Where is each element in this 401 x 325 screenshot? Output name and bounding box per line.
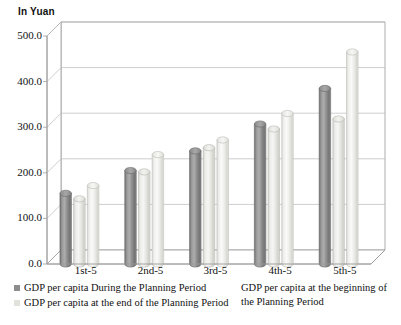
bar-3rd-5-series3 [217, 137, 229, 267]
bar-5th-5-series3 [347, 49, 359, 267]
x-category-label-4th-5: 4th-5 [250, 264, 310, 276]
bar-1st-5-series2 [74, 196, 86, 267]
legend-item-series3[interactable]: GDP per capita at the beginning of the P… [231, 281, 399, 309]
legend-swatch-series2 [14, 300, 20, 306]
legend-item-series1[interactable]: GDP per capita During the Planning Perio… [14, 281, 229, 294]
bar-1st-5-series1 [60, 190, 72, 267]
y-tick-label-400: 400.0 [0, 75, 42, 87]
bar-2nd-5-series3 [152, 151, 164, 267]
bar-5th-5-series1 [319, 85, 331, 267]
chart-container: In Yuan [0, 0, 401, 325]
x-category-label-5th-5: 5th-5 [315, 264, 375, 276]
bar-2nd-5-series2 [138, 169, 150, 267]
bar-2nd-5-series1 [125, 167, 137, 267]
legend-item-series2[interactable]: GDP per capita at the end of the Plannin… [14, 296, 229, 309]
x-category-label-1st-5: 1st-5 [56, 264, 116, 276]
y-tick-label-100: 100.0 [0, 211, 42, 223]
y-tick-label-200: 200.0 [0, 166, 42, 178]
bar-4th-5-series3 [282, 110, 294, 267]
legend-column-left: GDP per capita During the Planning Perio… [14, 281, 229, 311]
bar-4th-5-series1 [254, 121, 266, 267]
chart-legend: GDP per capita During the Planning Perio… [0, 281, 401, 321]
bar-5th-5-series2 [333, 116, 345, 267]
legend-label-series3: GDP per capita at the beginning of the P… [241, 281, 399, 309]
legend-swatch-series3 [231, 285, 237, 291]
y-tick-label-300: 300.0 [0, 120, 42, 132]
legend-swatch-series1 [14, 285, 20, 291]
x-category-label-2nd-5: 2nd-5 [121, 264, 181, 276]
y-tick-label-0: 0.0 [0, 257, 42, 269]
y-tick-label-500: 500.0 [0, 29, 42, 41]
bar-3rd-5-series2 [203, 145, 215, 267]
legend-label-series2: GDP per capita at the end of the Plannin… [24, 296, 229, 309]
bar-3rd-5-series1 [190, 148, 202, 267]
bar-4th-5-series2 [268, 126, 280, 267]
bar-chart-plot [0, 0, 401, 325]
x-category-label-3rd-5: 3rd-5 [185, 264, 245, 276]
legend-column-right: GDP per capita at the beginning of the P… [231, 281, 399, 311]
legend-label-series1: GDP per capita During the Planning Perio… [24, 281, 206, 294]
bar-1st-5-series3 [87, 182, 99, 267]
